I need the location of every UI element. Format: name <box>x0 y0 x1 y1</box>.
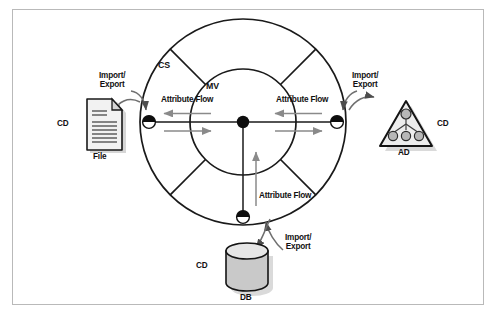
attribute-flow-label-right: Attribute Flow <box>276 96 328 105</box>
ring-label-mv: MV <box>206 82 219 92</box>
import-export-label-db: Import/ Export <box>285 234 311 252</box>
cd-label-file: CD <box>57 120 68 129</box>
document-icon <box>87 99 126 153</box>
import-export-line2: Export <box>285 243 311 252</box>
database-cylinder-icon <box>226 243 273 296</box>
endpoint-label-file: File <box>93 153 106 162</box>
cs-connector-right <box>331 116 344 129</box>
import-export-line2: Export <box>352 81 378 90</box>
import-arrow-db <box>266 222 283 250</box>
cd-label-db: CD <box>196 262 207 271</box>
directory-tree-triangle-icon <box>380 101 437 151</box>
endpoint-label-db: DB <box>240 294 251 303</box>
ring-label-cs: CS <box>158 61 170 71</box>
cs-connector-left <box>143 116 156 129</box>
attribute-flow-label-left: Attribute Flow <box>161 96 213 105</box>
import-export-label-ad: Import/ Export <box>352 72 378 90</box>
import-export-label-file: Import/ Export <box>99 72 125 90</box>
import-arrow-ad <box>349 97 374 110</box>
metaverse-hub-dot <box>237 116 249 128</box>
spoke-lower-left <box>170 160 205 195</box>
attribute-flow-label-bottom: Attribute Flow <box>259 192 311 201</box>
spoke-lower-right <box>281 160 316 195</box>
cd-label-ad: CD <box>437 120 448 129</box>
spoke-upper-left <box>170 49 205 84</box>
spoke-upper-right <box>281 49 316 84</box>
diagram-canvas <box>0 0 496 316</box>
figure-root: CS MV Attribute Flow Attribute Flow Attr… <box>0 0 496 316</box>
endpoint-label-ad: AD <box>398 149 409 158</box>
import-export-line2: Export <box>99 81 125 90</box>
cs-connector-bottom <box>237 211 250 224</box>
